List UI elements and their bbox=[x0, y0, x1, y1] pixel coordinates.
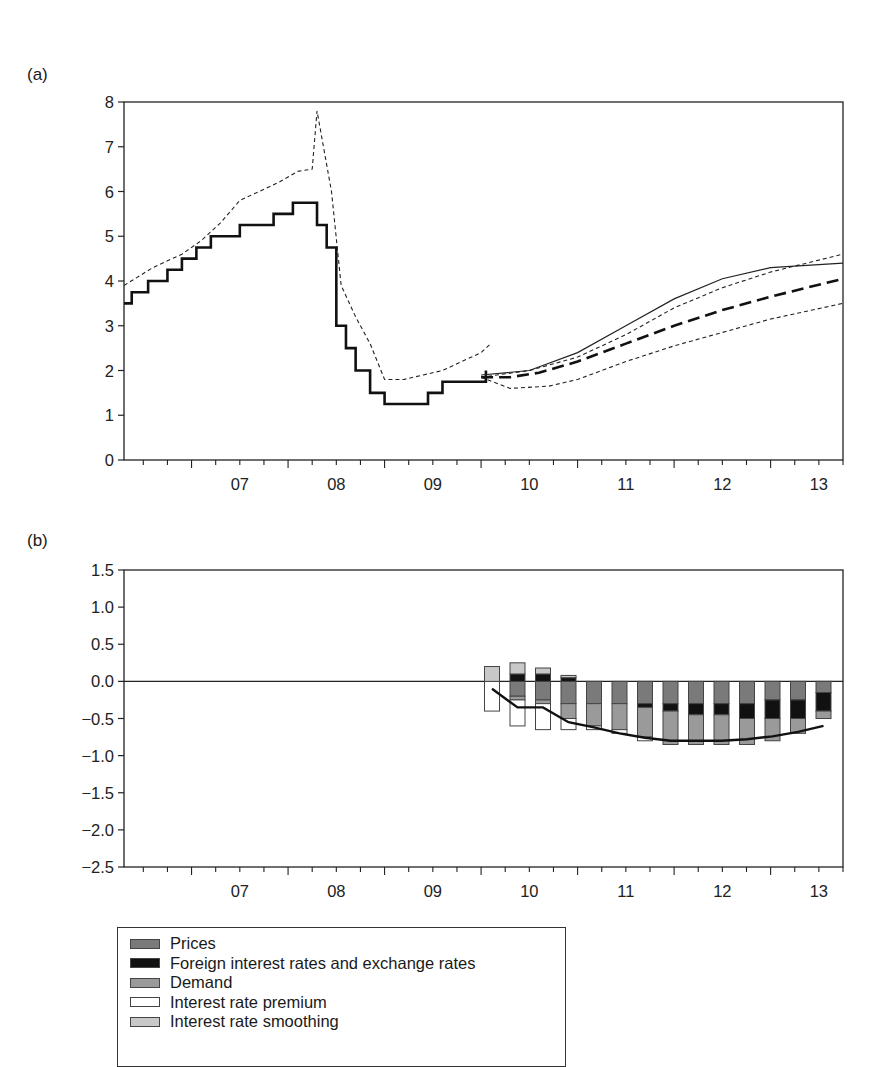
legend-label: Demand bbox=[170, 973, 232, 992]
bar-segment bbox=[510, 681, 525, 696]
y-tick-label: 1.5 bbox=[91, 561, 114, 579]
y-tick-label: −1.0 bbox=[81, 747, 114, 765]
bar-segment bbox=[561, 678, 576, 682]
bar-segment bbox=[587, 681, 602, 703]
bar-segment bbox=[740, 704, 755, 719]
bar-segment bbox=[714, 704, 729, 715]
bar-segment bbox=[587, 704, 602, 726]
x-tick-label: 12 bbox=[713, 882, 731, 900]
bar-segment bbox=[816, 681, 831, 692]
legend: Prices Foreign interest rates and exchan… bbox=[117, 927, 566, 1067]
bar-segment bbox=[714, 681, 729, 703]
smoothing-swatch-icon bbox=[130, 1017, 160, 1027]
legend-item-foreign-rates: Foreign interest rates and exchange rate… bbox=[130, 954, 565, 974]
bar-segment bbox=[740, 681, 755, 703]
bar-segment bbox=[536, 700, 551, 704]
foreign-rates-swatch-icon bbox=[130, 958, 160, 968]
legend-item-demand: Demand bbox=[130, 973, 565, 993]
bar-segment bbox=[816, 693, 831, 712]
bar-segment bbox=[561, 704, 576, 719]
bar-segment bbox=[510, 696, 525, 700]
x-tick-label: 11 bbox=[617, 882, 634, 900]
legend-label: Interest rate smoothing bbox=[170, 1012, 339, 1031]
y-tick-label: −2.0 bbox=[81, 821, 114, 839]
legend-label: Interest rate premium bbox=[170, 993, 327, 1012]
bar-segment bbox=[510, 663, 525, 674]
bar-segment bbox=[663, 704, 678, 711]
bar-segment bbox=[612, 704, 627, 730]
bar-segment bbox=[485, 681, 500, 711]
bar-segment bbox=[638, 704, 653, 708]
x-tick-label: 10 bbox=[520, 882, 538, 900]
bar-segment bbox=[765, 681, 780, 700]
legend-label: Prices bbox=[170, 934, 216, 953]
premium-swatch-icon bbox=[130, 997, 160, 1007]
y-tick-label: −0.5 bbox=[81, 710, 114, 728]
bar-segment bbox=[791, 700, 806, 719]
y-tick-label: 0.5 bbox=[91, 635, 114, 653]
demand-swatch-icon bbox=[130, 978, 160, 988]
bar-segment bbox=[485, 667, 500, 682]
bar-segment bbox=[816, 711, 831, 718]
bar-segment bbox=[536, 668, 551, 674]
x-tick-label: 07 bbox=[231, 882, 249, 900]
bar-segment bbox=[536, 681, 551, 700]
bar-segment bbox=[536, 674, 551, 681]
bar-segment bbox=[765, 700, 780, 719]
legend-item-premium: Interest rate premium bbox=[130, 993, 565, 1013]
legend-label: Foreign interest rates and exchange rate… bbox=[170, 954, 475, 973]
legend-item-smoothing: Interest rate smoothing bbox=[130, 1012, 565, 1032]
bar-segment bbox=[689, 704, 704, 715]
y-tick-label: −2.5 bbox=[81, 858, 114, 876]
bar-segment bbox=[638, 681, 653, 703]
legend-item-prices: Prices bbox=[130, 934, 565, 954]
bar-segment bbox=[510, 674, 525, 681]
y-tick-label: −1.5 bbox=[81, 784, 114, 802]
x-tick-label: 09 bbox=[424, 882, 442, 900]
bar-segment bbox=[612, 681, 627, 703]
x-tick-label: 13 bbox=[810, 882, 828, 900]
plot-frame bbox=[124, 570, 843, 867]
prices-swatch-icon bbox=[130, 939, 160, 949]
bar-segment bbox=[791, 681, 806, 700]
bar-segment bbox=[561, 675, 576, 677]
y-tick-label: 0.0 bbox=[91, 672, 114, 690]
x-tick-label: 08 bbox=[327, 882, 345, 900]
bar-segment bbox=[663, 681, 678, 703]
bar-segment bbox=[561, 681, 576, 703]
bar-segment bbox=[638, 707, 653, 737]
bar-segment bbox=[689, 681, 704, 703]
y-tick-label: 1.0 bbox=[91, 598, 114, 616]
chart-b: −2.5−2.0−1.5−1.0−0.50.00.51.01.507080910… bbox=[0, 0, 879, 920]
